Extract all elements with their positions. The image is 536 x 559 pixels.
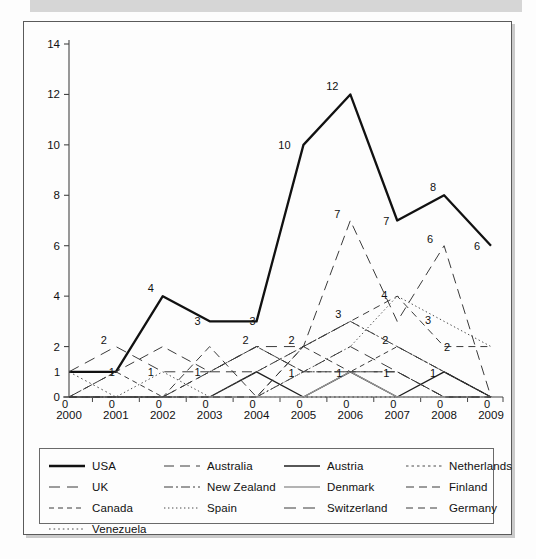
top-gray-bar xyxy=(30,0,522,12)
x-tick-label: 2009 xyxy=(478,409,504,421)
x-tick-label: 2007 xyxy=(384,409,410,421)
x-tick-label: 2006 xyxy=(338,409,364,421)
y-tick-label: 4 xyxy=(54,290,61,302)
legend-swatch-netherlands xyxy=(405,461,443,471)
x-tick-label: 2005 xyxy=(291,409,317,421)
legend-item-australia[interactable]: Australia xyxy=(163,460,283,472)
legend-swatch-austria xyxy=(283,461,321,471)
legend-item-denmark[interactable]: Denmark xyxy=(283,481,405,493)
data-label: 7 xyxy=(334,208,340,220)
series-line-australia[interactable] xyxy=(69,221,491,398)
data-label: 2 xyxy=(101,334,107,346)
legend-item-finland[interactable]: Finland xyxy=(405,481,505,493)
screenshot-root: 0246810121420002001200220032004200520062… xyxy=(0,0,536,559)
y-tick-label: 6 xyxy=(54,240,60,252)
data-label: 0 xyxy=(249,398,255,410)
data-label: 1 xyxy=(109,366,115,378)
data-label: 0 xyxy=(156,398,162,410)
data-label: 0 xyxy=(109,398,115,410)
legend-label: Netherlands xyxy=(449,460,512,472)
legend-swatch-canada xyxy=(48,503,86,513)
data-label: 3 xyxy=(425,314,431,326)
legend-swatch-switzerland xyxy=(283,503,321,513)
data-label: 0 xyxy=(484,398,490,410)
legend-label: Spain xyxy=(207,502,237,514)
legend-label: Finland xyxy=(449,481,487,493)
data-label: 1 xyxy=(288,367,294,379)
legend-item-spain[interactable]: Spain xyxy=(163,502,283,514)
legend-label: UK xyxy=(92,481,108,493)
y-tick-label: 2 xyxy=(54,341,60,353)
data-label: 4 xyxy=(381,289,387,301)
legend-label: USA xyxy=(92,460,116,472)
data-label: 0 xyxy=(390,398,396,410)
x-tick-label: 2002 xyxy=(150,409,176,421)
data-label: 3 xyxy=(195,315,201,327)
data-label: 8 xyxy=(430,181,436,193)
line-chart-svg: 0246810121420002001200220032004200520062… xyxy=(24,22,513,442)
data-label: 1 xyxy=(336,367,342,379)
data-label: 0 xyxy=(203,398,209,410)
legend-label: Australia xyxy=(207,460,253,472)
data-label: 3 xyxy=(335,308,341,320)
y-tick-label: 14 xyxy=(47,38,60,50)
legend-item-switzerland[interactable]: Switzerland xyxy=(283,502,405,514)
legend-item-netherlands[interactable]: Netherlands xyxy=(405,460,505,472)
data-label: 1 xyxy=(430,367,436,379)
x-tick-label: 2008 xyxy=(431,409,457,421)
legend-swatch-australia xyxy=(163,461,201,471)
data-label: 6 xyxy=(474,240,480,252)
data-label: 1 xyxy=(195,366,201,378)
legend-label: New Zealand xyxy=(207,481,276,493)
legend-swatch-usa xyxy=(48,461,86,471)
y-tick-label: 10 xyxy=(47,139,60,151)
data-label: 3 xyxy=(249,315,255,327)
legend-label: Switzerland xyxy=(327,502,388,514)
y-tick-label: 12 xyxy=(47,88,60,100)
legend-swatch-finland xyxy=(405,482,443,492)
data-label: 2 xyxy=(242,334,248,346)
legend-label: Denmark xyxy=(327,481,374,493)
legend-swatch-spain xyxy=(163,503,201,513)
legend-label: Austria xyxy=(327,460,364,472)
legend-item-canada[interactable]: Canada xyxy=(48,502,163,514)
chart-legend: USAAustraliaAustriaNetherlandsUKNew Zeal… xyxy=(39,448,494,524)
data-label: 0 xyxy=(437,398,443,410)
x-tick-label: 2004 xyxy=(244,409,270,421)
data-label: 7 xyxy=(383,215,389,227)
chart-frame: 0246810121420002001200220032004200520062… xyxy=(23,21,512,535)
y-tick-label: 8 xyxy=(54,189,60,201)
legend-swatch-denmark xyxy=(283,482,321,492)
data-label: 6 xyxy=(427,233,433,245)
data-label: 1 xyxy=(54,366,60,378)
data-label: 0 xyxy=(62,398,68,410)
x-tick-label: 2001 xyxy=(103,409,129,421)
legend-item-germany[interactable]: Germany xyxy=(405,502,505,514)
data-label: 2 xyxy=(382,334,388,346)
x-tick-label: 2000 xyxy=(56,409,82,421)
data-label: 0 xyxy=(296,398,302,410)
data-label: 12 xyxy=(326,80,338,92)
legend-grid: USAAustraliaAustriaNetherlandsUKNew Zeal… xyxy=(48,455,485,539)
legend-label: Canada xyxy=(92,502,133,514)
legend-label: Germany xyxy=(449,502,497,514)
legend-item-uk[interactable]: UK xyxy=(48,481,163,493)
data-label: 10 xyxy=(278,139,290,151)
legend-swatch-germany xyxy=(405,503,443,513)
data-label: 4 xyxy=(148,282,154,294)
series-line-netherlands[interactable] xyxy=(69,321,491,397)
data-label: 2 xyxy=(288,334,294,346)
data-label: 2 xyxy=(444,341,450,353)
legend-item-austria[interactable]: Austria xyxy=(283,460,405,472)
data-label: 1 xyxy=(148,366,154,378)
series-line-austria[interactable] xyxy=(69,372,491,397)
legend-item-venezuela[interactable]: Venezuela xyxy=(48,523,163,535)
legend-item-usa[interactable]: USA xyxy=(48,460,163,472)
data-label: 1 xyxy=(383,367,389,379)
legend-item-new-zealand[interactable]: New Zealand xyxy=(163,481,283,493)
legend-swatch-new-zealand xyxy=(163,482,201,492)
y-tick-label: 0 xyxy=(54,391,60,403)
legend-label: Venezuela xyxy=(92,523,147,535)
legend-swatch-venezuela xyxy=(48,524,86,534)
legend-swatch-uk xyxy=(48,482,86,492)
